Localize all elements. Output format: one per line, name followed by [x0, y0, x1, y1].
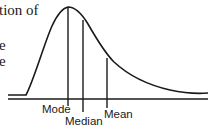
- median-label: Median: [65, 115, 103, 127]
- mean-label: Mean: [104, 108, 133, 120]
- skewed-distribution-diagram: Mode Median Mean: [0, 0, 208, 128]
- distribution-curve: [8, 7, 208, 95]
- mode-label: Mode: [42, 103, 71, 115]
